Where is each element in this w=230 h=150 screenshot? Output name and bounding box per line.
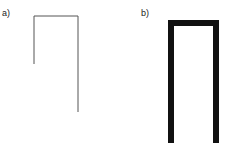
panel-a-thin-line-shape	[34, 16, 78, 112]
panel-b-thick-bar-shape	[171, 23, 216, 143]
diagram-canvas	[0, 0, 230, 150]
